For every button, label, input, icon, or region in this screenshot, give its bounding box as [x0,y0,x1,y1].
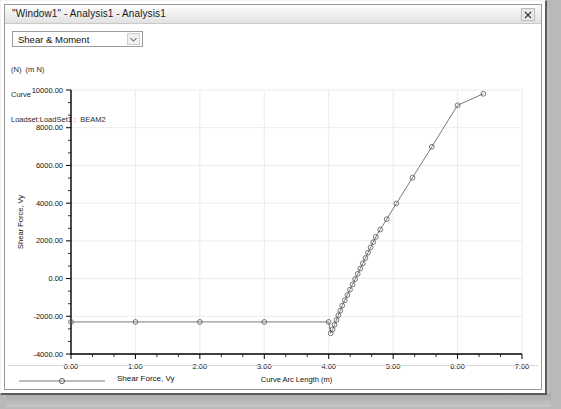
ytick-label: 0.00 [48,274,63,283]
shear-force-chart: -4000.00-2000.000.002000.004000.006000.0… [5,5,541,389]
y-axis-title: Shear Force, Vy [16,195,25,249]
series-polyline [71,94,483,333]
axis-lines [71,90,522,354]
xtick-label: 6.00 [450,362,465,371]
ytick-label: 4000.00 [36,199,63,208]
ytick-label: 8000.00 [36,123,63,132]
legend-divider [8,365,538,366]
x-axis-title: Curve Arc Length (m) [261,375,333,384]
window-client-area: "Window1" - Analysis1 - Analysis1 Shear … [4,4,542,390]
xtick-label: 0.00 [64,362,79,371]
xtick-label: 3.00 [257,362,272,371]
xtick-label: 7.00 [515,362,530,371]
xtick-label: 2.00 [193,362,208,371]
legend-label-shear-force: Shear Force, Vy [117,374,175,383]
ytick-label: 2000.00 [36,236,63,245]
window-shadow-bottom [6,393,551,407]
plot-container: -4000.00-2000.000.002000.004000.006000.0… [5,5,541,389]
ytick-label: 10000.00 [32,86,63,95]
xtick-label: 4.00 [321,362,336,371]
xtick-label: 1.00 [128,362,143,371]
ytick-label: -4000.00 [33,350,63,359]
ytick-label: -2000.00 [33,312,63,321]
xtick-label: 5.00 [386,362,401,371]
ytick-label: 6000.00 [36,161,63,170]
analysis-window: "Window1" - Analysis1 - Analysis1 Shear … [0,0,547,395]
screen-root: "Window1" - Analysis1 - Analysis1 Shear … [0,0,561,409]
legend-swatch [17,375,109,387]
chart-legend: Shear Force, Vy [17,373,109,387]
